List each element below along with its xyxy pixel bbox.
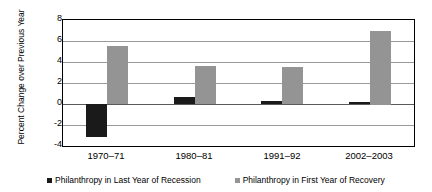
plot-area [62, 19, 415, 147]
chart-legend: Philanthropy in Last Year of Recession P… [0, 173, 432, 187]
y-tick-label: -2 [40, 119, 62, 128]
bar-recovery-1 [195, 66, 216, 104]
gridline [63, 41, 414, 42]
y-tick-label: 2 [40, 77, 62, 86]
bar-chart: Percent Change over Previous Year 86420-… [0, 0, 432, 192]
legend-item-recovery: Philanthropy in First Year of Recovery [235, 175, 385, 185]
y-tick-label: 0 [40, 98, 62, 107]
bar-recovery-0 [107, 46, 128, 104]
bar-recession-1 [174, 97, 195, 104]
legend-label-recovery: Philanthropy in First Year of Recovery [243, 175, 385, 185]
y-tick-label: 4 [40, 56, 62, 65]
x-tick-label: 1991–92 [238, 150, 326, 162]
y-tick-label: -4 [40, 140, 62, 149]
x-tick-label: 1980–81 [150, 150, 238, 162]
x-tick-label: 1970–71 [62, 150, 150, 162]
bar-recovery-3 [370, 31, 391, 105]
bar-recession-2 [261, 101, 282, 104]
zero-gridline [63, 104, 414, 105]
legend-swatch-dark-icon [47, 178, 52, 183]
legend-item-recession: Philanthropy in Last Year of Recession [47, 175, 201, 185]
legend-swatch-light-icon [235, 178, 240, 183]
y-tick-label: 6 [40, 35, 62, 44]
bar-recovery-2 [282, 67, 303, 104]
y-axis-title: Percent Change over Previous Year [14, 2, 28, 152]
y-axis-ticks: 86420-2-4 [34, 19, 62, 147]
y-tick-label: 8 [40, 14, 62, 23]
gridline [63, 125, 414, 126]
legend-label-recession: Philanthropy in Last Year of Recession [55, 175, 201, 185]
x-tick-label: 2002–2003 [325, 150, 413, 162]
x-axis-labels: 1970–711980–811991–922002–2003 [62, 150, 415, 164]
bar-recession-0 [86, 104, 107, 137]
bar-recession-3 [349, 102, 370, 104]
